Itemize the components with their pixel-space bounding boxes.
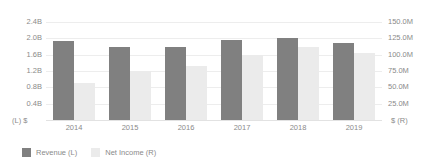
left-axis-tick-label: 2.4B: [27, 18, 42, 26]
chart-legend: Revenue (L)Net Income (R): [22, 148, 156, 157]
bar-group: [333, 22, 375, 120]
bar-group: [277, 22, 319, 120]
bar-net-income[interactable]: [186, 66, 207, 120]
category-label-2016: 2016: [165, 124, 207, 132]
bar-net-income[interactable]: [354, 53, 375, 120]
left-axis-tick-label: 1.6B: [27, 51, 42, 59]
category-label-2018: 2018: [277, 124, 319, 132]
legend-item-revenue[interactable]: Revenue (L): [22, 148, 77, 157]
gridline: [46, 22, 382, 23]
bar-group: [221, 22, 263, 120]
legend-label: Revenue (L): [36, 149, 77, 157]
legend-swatch-icon: [22, 148, 31, 157]
right-axis-tick-label: 100.0M: [388, 51, 413, 59]
left-axis-tick-label: 2.0B: [27, 34, 42, 42]
right-axis-tick-label: 75.0M: [388, 67, 409, 75]
right-axis-tick-label: 25.0M: [388, 100, 409, 108]
bar-net-income[interactable]: [74, 83, 95, 120]
right-axis-unit-label: $ (R): [391, 117, 408, 125]
bar-revenue[interactable]: [277, 38, 298, 120]
left-axis: 0.4B0.8B1.2B1.6B2.0B2.4B: [0, 0, 42, 166]
bar-revenue[interactable]: [165, 47, 186, 120]
right-axis-tick-label: 50.0M: [388, 83, 409, 91]
gridline: [46, 104, 382, 105]
right-axis-tick-label: 125.0M: [388, 34, 413, 42]
plot-area: [46, 22, 382, 120]
bar-chart: 0.4B0.8B1.2B1.6B2.0B2.4B 25.0M50.0M75.0M…: [0, 0, 437, 166]
legend-swatch-icon: [91, 148, 100, 157]
left-axis-tick-label: 0.8B: [27, 83, 42, 91]
legend-item-net-income[interactable]: Net Income (R): [91, 148, 156, 157]
left-axis-tick-label: 1.2B: [27, 67, 42, 75]
gridline: [46, 87, 382, 88]
category-label-2019: 2019: [333, 124, 375, 132]
bar-group: [109, 22, 151, 120]
gridline: [46, 38, 382, 39]
bar-revenue[interactable]: [53, 41, 74, 120]
category-label-2015: 2015: [109, 124, 151, 132]
bar-revenue[interactable]: [109, 47, 130, 120]
bar-group: [53, 22, 95, 120]
legend-label: Net Income (R): [105, 149, 156, 157]
bar-net-income[interactable]: [242, 55, 263, 120]
right-axis-tick-label: 150.0M: [388, 18, 413, 26]
bar-net-income[interactable]: [298, 47, 319, 120]
bar-revenue[interactable]: [333, 43, 354, 120]
gridline: [46, 120, 382, 121]
gridline: [46, 55, 382, 56]
category-label-2017: 2017: [221, 124, 263, 132]
left-axis-tick-label: 0.4B: [27, 100, 42, 108]
bar-revenue[interactable]: [221, 40, 242, 120]
bar-net-income[interactable]: [130, 71, 151, 120]
left-axis-unit-label: (L) $: [12, 117, 27, 125]
category-label-2014: 2014: [53, 124, 95, 132]
right-axis: 25.0M50.0M75.0M100.0M125.0M150.0M: [388, 0, 437, 166]
bar-group: [165, 22, 207, 120]
gridline: [46, 71, 382, 72]
